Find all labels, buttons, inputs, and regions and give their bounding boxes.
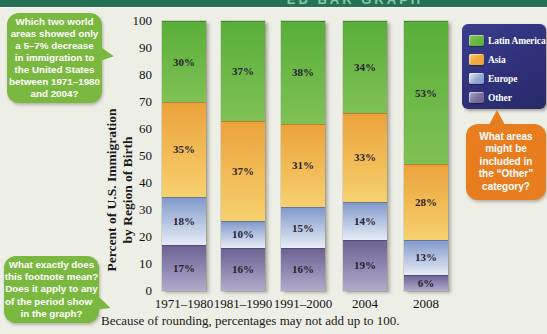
bar-segment-label: 15% <box>281 222 325 234</box>
bar-segment-label: 10% <box>221 228 265 240</box>
legend: Latin AmericaAsiaEuropeOther <box>462 24 546 109</box>
bar-segment-label: 14% <box>343 215 387 227</box>
bar-segment: 37% <box>221 21 265 121</box>
stacked-bar: 6%13%28%53% <box>404 21 448 291</box>
bar-segment-label: 13% <box>404 251 448 263</box>
y-tick-label: 90 <box>118 40 152 56</box>
callout-question-other: What areas might be included in the “Oth… <box>466 124 546 200</box>
bar-segment-label: 33% <box>343 151 387 163</box>
bar-segment: 16% <box>221 248 265 291</box>
bar-segment: 18% <box>162 197 206 246</box>
bar-segment: 31% <box>281 124 325 208</box>
bar-segment: 13% <box>404 240 448 275</box>
bar-segment: 10% <box>221 221 265 248</box>
x-axis-label: 2008 <box>381 296 471 312</box>
bar-segment-label: 53% <box>404 87 448 99</box>
bar-segment: 28% <box>404 164 448 240</box>
stacked-bar: 16%10%37%37% <box>221 21 265 291</box>
bar-segment: 35% <box>162 102 206 197</box>
y-tick-label: 70 <box>118 94 152 110</box>
stacked-bar: 17%18%35%30% <box>162 21 206 291</box>
bar-segment: 19% <box>343 240 387 291</box>
legend-swatch <box>469 92 484 103</box>
y-tick-label: 20 <box>118 229 152 245</box>
bar-segment: 6% <box>404 275 448 291</box>
bar-segment-label: 30% <box>162 56 206 68</box>
bar-segment-label: 37% <box>221 165 265 177</box>
callout-text: Which two world areas showed only a 5–7%… <box>7 16 102 99</box>
bar-segment-label: 16% <box>221 263 265 275</box>
callout-text: What areas might be included in the “Oth… <box>466 131 546 194</box>
legend-swatch <box>469 54 484 65</box>
legend-item: Asia <box>462 50 546 69</box>
bar-segment-label: 16% <box>281 263 325 275</box>
bar-segment: 14% <box>343 202 387 240</box>
bar-segment-label: 35% <box>162 143 206 155</box>
y-tick-label: 60 <box>118 121 152 137</box>
bar-segment: 53% <box>404 21 448 164</box>
bar-segment-label: 6% <box>404 277 448 289</box>
bar-segment-label: 34% <box>343 61 387 73</box>
legend-label: Asia <box>488 55 506 65</box>
bar-segment-label: 28% <box>404 196 448 208</box>
legend-item: Other <box>462 88 546 107</box>
legend-label: Other <box>488 93 512 103</box>
bar-segment: 17% <box>162 245 206 291</box>
y-tick-label: 100 <box>118 13 152 29</box>
bar-segment: 34% <box>343 21 387 113</box>
callout-text: What exactly does this footnote mean? Do… <box>4 259 99 319</box>
bar-segment-label: 37% <box>221 65 265 77</box>
legend-swatch <box>469 35 484 46</box>
y-tick-label: 10 <box>118 256 152 272</box>
bar-segment: 37% <box>221 121 265 221</box>
callout-question-footnote: What exactly does this footnote mean? Do… <box>4 256 99 323</box>
footnote: Because of rounding, percentages may not… <box>101 313 400 329</box>
bar-segment-label: 19% <box>343 259 387 271</box>
bar-segment-label: 38% <box>281 66 325 78</box>
bar-segment: 30% <box>162 21 206 102</box>
bar-segment-label: 18% <box>162 215 206 227</box>
stacked-bar: 16%15%31%38% <box>281 21 325 291</box>
stacked-bar: 19%14%33%34% <box>343 21 387 291</box>
bar-segment: 16% <box>281 248 325 291</box>
bar-segment: 38% <box>281 21 325 124</box>
bar-segment-label: 17% <box>162 262 206 274</box>
bar-segment: 15% <box>281 207 325 248</box>
page: ED BAR GRAPH Percent of U.S. Immigration… <box>0 0 547 334</box>
bar-segment: 33% <box>343 113 387 202</box>
y-tick-label: 80 <box>118 67 152 83</box>
legend-label: Latin America <box>488 36 546 46</box>
legend-item: Europe <box>462 69 546 88</box>
legend-item: Latin America <box>462 31 546 50</box>
bar-segment-label: 31% <box>281 159 325 171</box>
y-tick-label: 30 <box>118 202 152 218</box>
header-title-fragment: ED BAR GRAPH <box>260 0 450 7</box>
callout-question-decrease: Which two world areas showed only a 5–7%… <box>7 13 102 103</box>
header-bar: ED BAR GRAPH <box>0 0 547 7</box>
legend-label: Europe <box>488 74 517 84</box>
y-tick-label: 40 <box>118 175 152 191</box>
callout-tail-other <box>489 110 505 125</box>
callout-tail-top-left <box>95 45 115 65</box>
legend-swatch <box>469 73 484 84</box>
y-tick-label: 50 <box>118 148 152 164</box>
